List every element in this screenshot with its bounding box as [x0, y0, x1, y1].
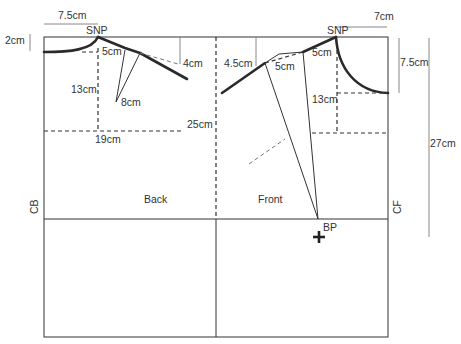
label-front-shoulder-inner: 5cm	[312, 46, 332, 58]
front-neckline	[336, 37, 388, 93]
label-back-snp: SNP	[86, 24, 108, 36]
label-back-dart-length: 8cm	[121, 96, 141, 108]
label-back-armhole-depth: 13cm	[71, 83, 97, 95]
label-front-neck-depth: 7.5cm	[400, 56, 429, 68]
back-shoulder-line	[98, 37, 187, 79]
label-front-neck-width: 7cm	[374, 10, 394, 22]
front-dart-leg-inner	[303, 52, 318, 219]
label-front-panel: Front	[258, 193, 283, 205]
label-front-shoulder-outer: 5cm	[275, 60, 295, 72]
label-center-front: CF	[391, 200, 403, 214]
back-shoulder-dart	[116, 50, 140, 102]
label-back-neck-width: 7.5cm	[58, 9, 87, 21]
label-front-armhole-depth: 13cm	[312, 93, 338, 105]
label-armhole-depth-total: 25cm	[187, 118, 213, 130]
bodice-pattern-diagram: 7.5cm SNP 2cm 5cm 4cm 13cm 8cm 19cm 25cm…	[0, 0, 461, 344]
label-center-back: CB	[28, 199, 40, 214]
front-armhole-diagonal-dash	[249, 139, 285, 164]
back-neckline	[44, 37, 98, 52]
label-front-snp: SNP	[327, 24, 349, 36]
label-back-panel: Back	[144, 193, 168, 205]
label-front-length: 27cm	[430, 137, 456, 149]
label-back-width: 19cm	[95, 133, 121, 145]
label-back-neck-depth: 2cm	[5, 34, 25, 46]
label-front-shoulder-drop: 4.5cm	[224, 57, 253, 69]
label-bust-point: BP	[323, 221, 337, 233]
label-back-shoulder-to-dart: 5cm	[102, 45, 122, 57]
label-back-shoulder-drop: 4cm	[183, 57, 203, 69]
